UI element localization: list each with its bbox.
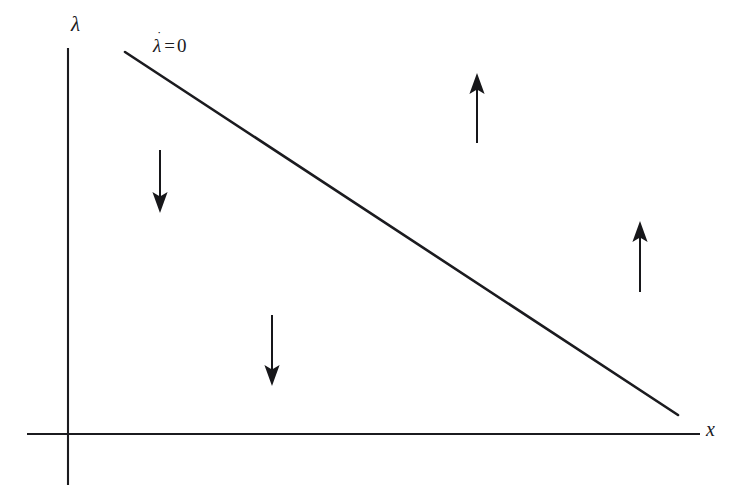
nullcline-label: λ˙=0 <box>153 36 186 55</box>
flow-arrow-up-right-upper <box>469 73 484 143</box>
flow-arrow-up-right-lower <box>632 221 647 292</box>
nullcline-label-value: 0 <box>177 35 187 56</box>
flow-arrow-down-left-lower <box>264 315 279 386</box>
nullcline-label-dot-accent: ˙ <box>157 29 161 42</box>
x-axis-label: x <box>706 419 715 439</box>
nullcline-label-operator: = <box>161 35 177 56</box>
phase-diagram-canvas <box>0 0 737 500</box>
nullcline-lambda-dot-zero <box>125 52 678 415</box>
flow-arrow-down-left-upper <box>152 150 167 213</box>
y-axis-label: λ <box>71 14 80 35</box>
phase-diagram-figure: λ x λ˙=0 <box>0 0 737 500</box>
